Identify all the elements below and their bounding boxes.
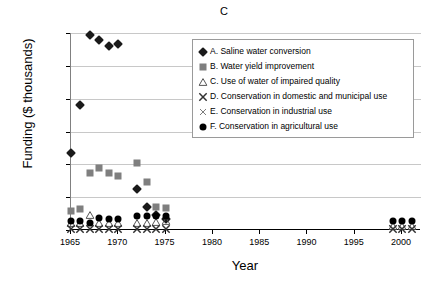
x-axis-title: Year bbox=[70, 258, 420, 273]
legend: A. Saline water conversionB. Water yield… bbox=[192, 39, 414, 138]
data-point-d bbox=[398, 225, 407, 234]
data-point-f bbox=[86, 220, 93, 227]
data-point-d bbox=[407, 225, 416, 234]
data-point-c bbox=[95, 219, 104, 227]
x-axis-tick-label: 1990 bbox=[284, 237, 328, 247]
data-point-e bbox=[143, 225, 151, 233]
data-point-d bbox=[95, 225, 104, 234]
data-point-d bbox=[388, 225, 397, 234]
legend-swatch-f bbox=[198, 121, 209, 132]
legend-item-c[interactable]: C. Use of water of impaired quality bbox=[198, 74, 408, 89]
legend-label-d: D. Conservation in domestic and municipa… bbox=[210, 89, 387, 104]
data-point-a bbox=[142, 202, 152, 212]
legend-item-b[interactable]: B. Water yield improvement bbox=[198, 59, 408, 74]
legend-swatch-d bbox=[198, 91, 209, 102]
marker-circle bbox=[200, 124, 207, 131]
data-point-a bbox=[94, 35, 104, 45]
gridline bbox=[71, 33, 421, 34]
data-point-c bbox=[114, 219, 123, 227]
data-point-f bbox=[115, 215, 122, 222]
data-point-d bbox=[104, 225, 113, 234]
y-axis-title: Funding ($ thousands) bbox=[20, 0, 35, 214]
legend-swatch-e bbox=[198, 106, 209, 117]
data-point-f bbox=[105, 215, 112, 222]
data-point-f bbox=[96, 214, 103, 221]
data-point-a bbox=[132, 184, 142, 194]
x-axis-tick-mark bbox=[401, 230, 402, 234]
data-point-c bbox=[398, 222, 407, 230]
data-point-a bbox=[113, 40, 123, 50]
x-axis-tick-mark bbox=[306, 230, 307, 234]
data-point-a bbox=[66, 148, 76, 158]
data-point-d bbox=[152, 224, 161, 233]
legend-label-c: C. Use of water of impaired quality bbox=[210, 74, 340, 89]
data-point-d bbox=[142, 224, 151, 233]
data-point-a bbox=[104, 41, 114, 51]
data-point-f bbox=[77, 217, 84, 224]
legend-item-e[interactable]: E. Conservation in industrial use bbox=[198, 104, 408, 119]
data-point-f bbox=[389, 217, 396, 224]
data-point-b bbox=[77, 206, 84, 213]
marker-diamond bbox=[198, 47, 208, 57]
legend-item-d[interactable]: D. Conservation in domestic and municipa… bbox=[198, 89, 408, 104]
x-axis-tick-mark bbox=[117, 230, 118, 234]
data-point-f bbox=[68, 217, 75, 224]
x-axis-tick-label: 1995 bbox=[332, 237, 376, 247]
legend-item-f[interactable]: F. Conservation in agricultural use bbox=[198, 119, 408, 134]
data-point-d bbox=[114, 225, 123, 234]
data-point-d bbox=[161, 224, 170, 233]
x-axis-tick-label: 1965 bbox=[48, 237, 92, 247]
marker-x-thin bbox=[199, 108, 207, 116]
data-point-f bbox=[143, 213, 150, 220]
gridline bbox=[71, 197, 421, 198]
x-axis-tick-label: 2000 bbox=[379, 237, 423, 247]
funding-scatter-chart: C Funding ($ thousands) 020,00040,00060,… bbox=[0, 0, 448, 291]
data-point-c bbox=[85, 211, 94, 219]
legend-label-a: A. Saline water conversion bbox=[210, 44, 311, 59]
data-point-c bbox=[152, 218, 161, 226]
legend-swatch-b bbox=[198, 61, 209, 72]
data-point-b bbox=[153, 204, 160, 211]
data-point-d bbox=[85, 225, 94, 234]
data-point-e bbox=[389, 225, 397, 233]
legend-label-b: B. Water yield improvement bbox=[210, 59, 314, 74]
data-point-e bbox=[398, 225, 406, 233]
legend-swatch-a bbox=[198, 46, 209, 57]
legend-label-e: E. Conservation in industrial use bbox=[210, 104, 332, 119]
data-point-b bbox=[143, 179, 150, 186]
data-point-b bbox=[96, 165, 103, 172]
data-point-e bbox=[152, 225, 160, 233]
x-axis-tick-mark bbox=[212, 230, 213, 234]
data-point-c bbox=[161, 217, 170, 225]
legend-item-a[interactable]: A. Saline water conversion bbox=[198, 44, 408, 59]
data-point-d bbox=[76, 225, 85, 234]
data-point-e bbox=[76, 225, 84, 233]
data-point-c bbox=[388, 222, 397, 230]
x-axis-tick-mark bbox=[70, 230, 71, 234]
x-axis-tick-mark bbox=[165, 230, 166, 234]
data-point-c bbox=[76, 219, 85, 227]
data-point-f bbox=[134, 213, 141, 220]
data-point-c bbox=[104, 219, 113, 227]
x-axis-tick-label: 1985 bbox=[237, 237, 281, 247]
chart-title: C bbox=[0, 5, 448, 17]
data-point-e bbox=[95, 225, 103, 233]
data-point-e bbox=[114, 225, 122, 233]
marker-triangle bbox=[199, 78, 208, 86]
marker-square bbox=[200, 64, 207, 71]
data-point-a bbox=[151, 210, 161, 220]
marker-x-bold bbox=[199, 93, 208, 102]
data-point-d bbox=[133, 224, 142, 233]
data-point-c bbox=[142, 219, 151, 227]
data-point-e bbox=[86, 225, 94, 233]
x-axis-tick-label: 1980 bbox=[190, 237, 234, 247]
gridline bbox=[71, 164, 421, 165]
data-point-e bbox=[162, 225, 170, 233]
x-axis-tick-label: 1970 bbox=[95, 237, 139, 247]
data-point-f bbox=[399, 217, 406, 224]
data-point-e bbox=[105, 225, 113, 233]
data-point-b bbox=[162, 204, 169, 211]
data-point-f bbox=[162, 213, 169, 220]
legend-label-f: F. Conservation in agricultural use bbox=[210, 119, 338, 134]
data-point-a bbox=[161, 214, 171, 224]
